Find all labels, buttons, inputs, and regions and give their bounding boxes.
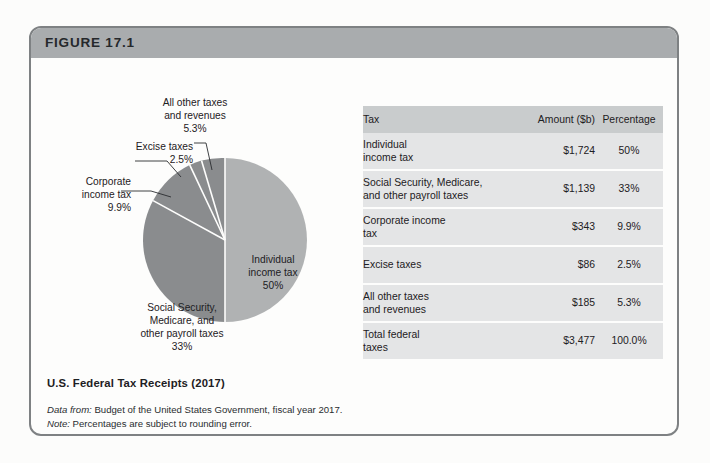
column-header-tax: Tax — [363, 106, 513, 133]
table-row: Individualincome tax $1,724 50% — [363, 133, 663, 170]
cell-amount: $1,139 — [513, 170, 595, 208]
cell-amount: $86 — [513, 246, 595, 284]
pie-label-corporate-income-tax: Corporateincome tax9.9% — [43, 175, 131, 214]
cell-tax: Corporate incometax — [363, 208, 513, 246]
figure-caption-title: U.S. Federal Tax Receipts (2017) — [47, 377, 225, 389]
source-prefix: Data from: — [47, 404, 92, 415]
table-row-total: Total federaltaxes $3,477 100.0% — [363, 322, 663, 360]
tax-table: Tax Amount ($b) Percentage Individualinc… — [363, 106, 663, 361]
source-text: Budget of the United States Government, … — [92, 404, 343, 415]
cell-percentage: 9.9% — [595, 208, 663, 246]
cell-tax: Social Security, Medicare,and other payr… — [363, 170, 513, 208]
pie-label-all-other-taxes: All other taxesand revenues5.3% — [141, 96, 249, 135]
cell-tax: Individualincome tax — [363, 133, 513, 170]
cell-tax: All other taxesand revenues — [363, 284, 513, 322]
pie-label-social-security: Social Security,Medicare, andother payro… — [119, 301, 245, 353]
cell-percentage: 50% — [595, 133, 663, 170]
table-row: Social Security, Medicare,and other payr… — [363, 170, 663, 208]
table-body: Individualincome tax $1,724 50% Social S… — [363, 133, 663, 360]
figure-source-note: Data from: Budget of the United States G… — [47, 403, 342, 430]
cell-amount: $343 — [513, 208, 595, 246]
figure-page: FIGURE 17.1 — [0, 0, 710, 463]
note-line: Note: Percentages are subject to roundin… — [47, 417, 342, 431]
cell-tax: Total federaltaxes — [363, 322, 513, 360]
cell-percentage: 33% — [595, 170, 663, 208]
note-text: Percentages are subject to rounding erro… — [70, 418, 252, 429]
source-line: Data from: Budget of the United States G… — [47, 403, 342, 417]
table-row: Excise taxes $86 2.5% — [363, 246, 663, 284]
cell-percentage: 5.3% — [595, 284, 663, 322]
figure-box: FIGURE 17.1 — [29, 26, 679, 436]
table-row: Corporate incometax $343 9.9% — [363, 208, 663, 246]
cell-amount: $1,724 — [513, 133, 595, 170]
column-header-amount: Amount ($b) — [513, 106, 595, 133]
figure-number-label: FIGURE 17.1 — [45, 35, 135, 50]
table-header-row: Tax Amount ($b) Percentage — [363, 106, 663, 133]
cell-amount: $185 — [513, 284, 595, 322]
note-prefix: Note: — [47, 418, 70, 429]
column-header-percentage: Percentage — [595, 106, 663, 133]
cell-percentage: 2.5% — [595, 246, 663, 284]
table-row: All other taxesand revenues $185 5.3% — [363, 284, 663, 322]
tax-table-wrap: Tax Amount ($b) Percentage Individualinc… — [363, 106, 663, 361]
pie-label-individual-income-tax: Individualincome tax50% — [227, 253, 319, 292]
pie-chart: Individualincome tax50% Social Security,… — [31, 58, 381, 388]
cell-percentage: 100.0% — [595, 322, 663, 360]
cell-tax: Excise taxes — [363, 246, 513, 284]
pie-slice-individual-income-tax — [225, 158, 307, 322]
pie-label-excise-taxes: Excise taxes2.5% — [89, 140, 193, 166]
cell-amount: $3,477 — [513, 322, 595, 360]
